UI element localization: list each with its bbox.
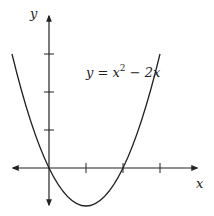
y-axis-label: y — [29, 6, 38, 21]
equation-tail: − 2x — [126, 65, 161, 80]
chart: y x y = x2 − 2x — [0, 0, 214, 216]
equation-main: y = x — [85, 65, 121, 80]
x-axis-label: x — [196, 176, 204, 191]
equation-label: y = x2 − 2x — [85, 63, 161, 80]
